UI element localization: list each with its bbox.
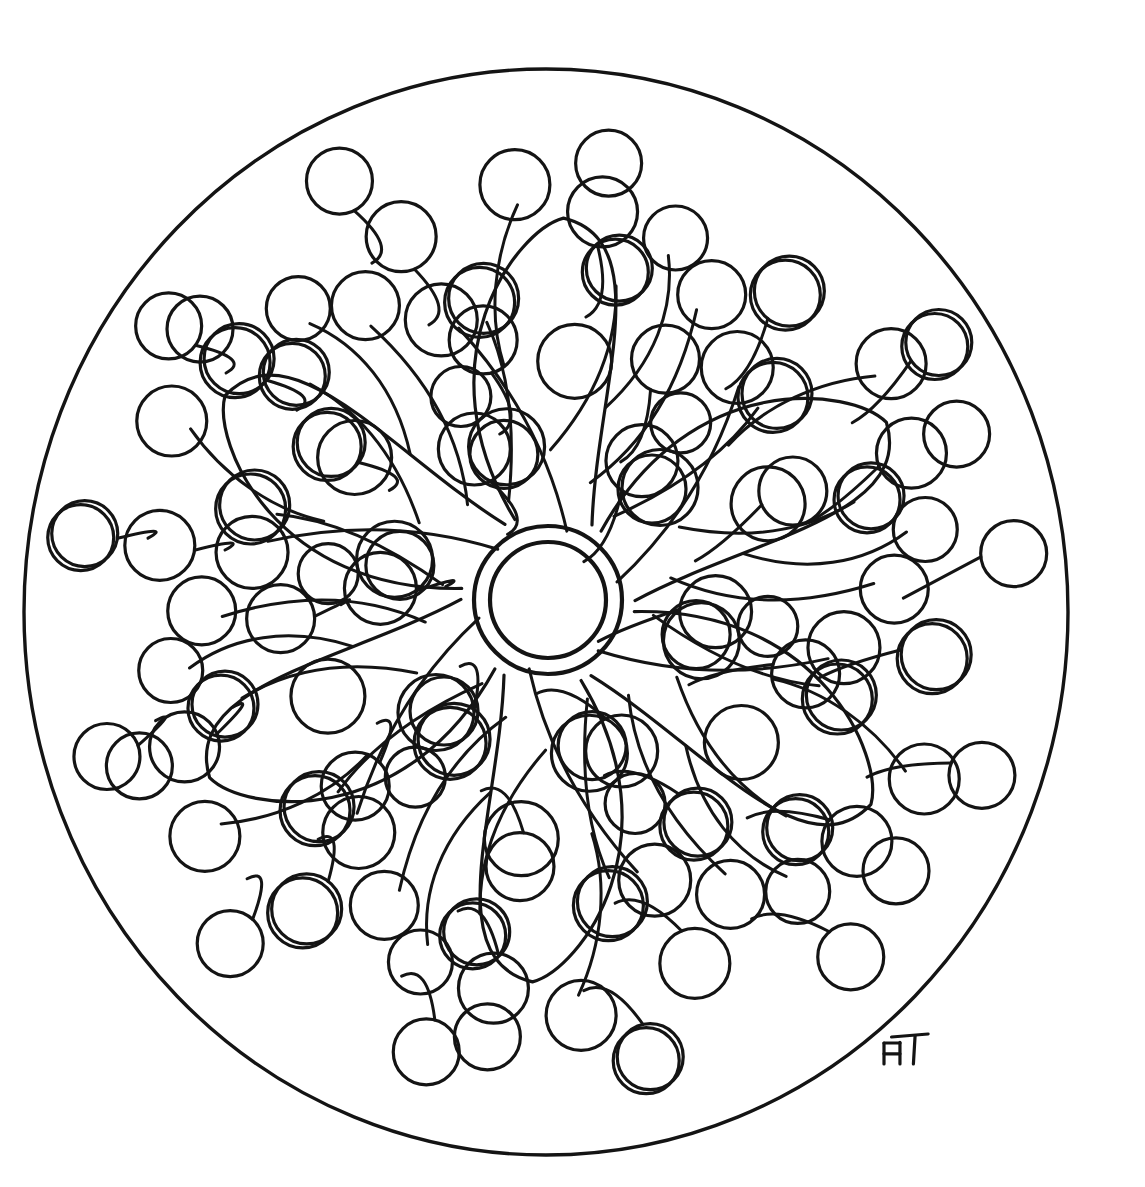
mandala-artwork [0,0,1145,1187]
signature-stroke-5 [913,1036,915,1064]
